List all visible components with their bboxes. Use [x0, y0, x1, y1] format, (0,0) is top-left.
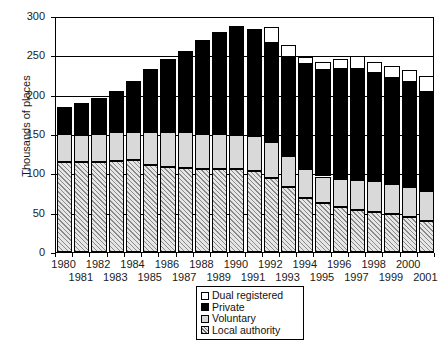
bar-segment-local-authority-1995	[315, 203, 330, 252]
bar-segment-local-authority-2001	[419, 221, 434, 252]
x-tick-mark-16	[331, 253, 332, 257]
bar-segment-private-1999	[384, 78, 399, 184]
bar-segment-local-authority-1989	[212, 169, 227, 252]
bar-1989	[212, 16, 227, 252]
x-tick-mark-14	[296, 253, 297, 257]
bar-segment-voluntary-1990	[229, 135, 244, 170]
bar-segment-local-authority-1984	[126, 160, 141, 252]
bar-1999	[384, 16, 399, 252]
gray-square-icon	[201, 315, 209, 323]
legend-item-label: Local authority	[212, 325, 280, 336]
bar-segment-voluntary-1982	[91, 134, 106, 162]
bar-segment-voluntary-1988	[195, 134, 210, 169]
bar-segment-private-2001	[419, 92, 434, 191]
x-tick-mark-6	[158, 253, 159, 257]
bar-segment-voluntary-1997	[350, 180, 365, 210]
x-tick-mark-2	[89, 253, 90, 257]
bar-1997	[350, 16, 365, 252]
bar-segment-local-authority-1987	[178, 168, 193, 252]
bar-1995	[315, 16, 330, 252]
bar-segment-voluntary-1985	[143, 132, 158, 164]
bar-2001	[419, 16, 434, 252]
x-tick-mark-18	[365, 253, 366, 257]
bar-1987	[178, 16, 193, 252]
bar-segment-private-1990	[229, 26, 244, 135]
bar-segment-voluntary-1999	[384, 184, 399, 214]
y-tick-label-250: 250	[5, 50, 45, 60]
legend-item-voluntary[interactable]: Voluntary	[201, 313, 299, 325]
x-tick-mark-22	[434, 253, 435, 257]
x-tick-label-2001: 2001	[405, 271, 445, 283]
bar-segment-local-authority-1980	[57, 162, 72, 252]
bar-segment-local-authority-1997	[350, 210, 365, 252]
bar-segment-voluntary-2001	[419, 191, 434, 221]
bar-segment-private-1992	[264, 43, 279, 142]
bar-segment-voluntary-1996	[333, 179, 348, 207]
bar-segment-private-1980	[57, 107, 72, 134]
bar-1994	[298, 16, 313, 252]
bar-1982	[91, 16, 106, 252]
bar-segment-local-authority-2000	[402, 217, 417, 252]
y-tick-label-0: 0	[5, 247, 45, 257]
bar-segment-private-1997	[350, 69, 365, 180]
x-tick-mark-5	[141, 253, 142, 257]
bar-segment-private-1983	[109, 91, 124, 133]
bar-1988	[195, 16, 210, 252]
bar-segment-private-1985	[143, 69, 158, 133]
x-tick-mark-7	[176, 253, 177, 257]
bar-segment-voluntary-1989	[212, 134, 227, 169]
x-tick-mark-4	[124, 253, 125, 257]
bar-1983	[109, 16, 124, 252]
bar-segment-local-authority-1990	[229, 169, 244, 252]
bar-segment-dual-registered-1993	[281, 45, 296, 57]
hatched-square-icon	[201, 326, 209, 334]
bar-segment-dual-registered-1997	[350, 56, 365, 69]
x-tick-mark-3	[107, 253, 108, 257]
bar-segment-voluntary-1987	[178, 132, 193, 167]
y-tick-label-300: 300	[5, 11, 45, 21]
bar-segment-local-authority-1982	[91, 162, 106, 252]
bar-segment-dual-registered-1994	[298, 57, 313, 64]
bar-segment-private-1988	[195, 40, 210, 134]
bar-segment-local-authority-1988	[195, 169, 210, 252]
bar-segment-voluntary-1992	[264, 142, 279, 178]
bar-2000	[402, 16, 417, 252]
bar-segment-private-1995	[315, 70, 330, 177]
bar-segment-private-1984	[126, 81, 141, 131]
bar-segment-voluntary-1993	[281, 156, 296, 187]
black-square-icon	[201, 303, 209, 311]
bar-segment-voluntary-1980	[57, 134, 72, 162]
legend-item-local-authority[interactable]: Local authority	[201, 325, 299, 337]
bar-segment-voluntary-1994	[298, 169, 313, 198]
y-tick-label-100: 100	[5, 168, 45, 178]
y-tick-label-50: 50	[5, 208, 45, 218]
legend-item-dual-registered[interactable]: Dual registered	[201, 290, 299, 302]
x-tick-mark-11	[245, 253, 246, 257]
bar-segment-dual-registered-1999	[384, 66, 399, 78]
y-tick-label-200: 200	[5, 90, 45, 100]
bar-1993	[281, 16, 296, 252]
chart-figure: Thousands of places 300250200150100500 1…	[0, 0, 446, 356]
bar-segment-local-authority-1992	[264, 178, 279, 252]
bar-segment-private-2000	[402, 82, 417, 187]
plot-area	[55, 17, 434, 253]
bar-1986	[160, 16, 175, 252]
bar-segment-dual-registered-1998	[367, 62, 382, 73]
bar-segment-local-authority-1986	[160, 167, 175, 252]
bar-segment-private-1986	[160, 59, 175, 132]
legend-item-label: Voluntary	[212, 313, 256, 324]
bar-segment-private-1998	[367, 73, 382, 182]
bar-segment-local-authority-1999	[384, 214, 399, 252]
bar-segment-private-1993	[281, 57, 296, 156]
bar-segment-dual-registered-1996	[333, 59, 348, 68]
bar-segment-local-authority-1985	[143, 165, 158, 252]
x-tick-mark-20	[400, 253, 401, 257]
x-tick-mark-1	[72, 253, 73, 257]
bar-segment-dual-registered-1992	[264, 27, 279, 43]
x-tick-mark-0	[55, 253, 56, 257]
bar-segment-dual-registered-1995	[315, 62, 330, 69]
bar-segment-voluntary-1983	[109, 132, 124, 160]
bar-segment-dual-registered-2001	[419, 76, 434, 93]
x-tick-mark-10	[227, 253, 228, 257]
bar-segment-private-1994	[298, 64, 313, 169]
